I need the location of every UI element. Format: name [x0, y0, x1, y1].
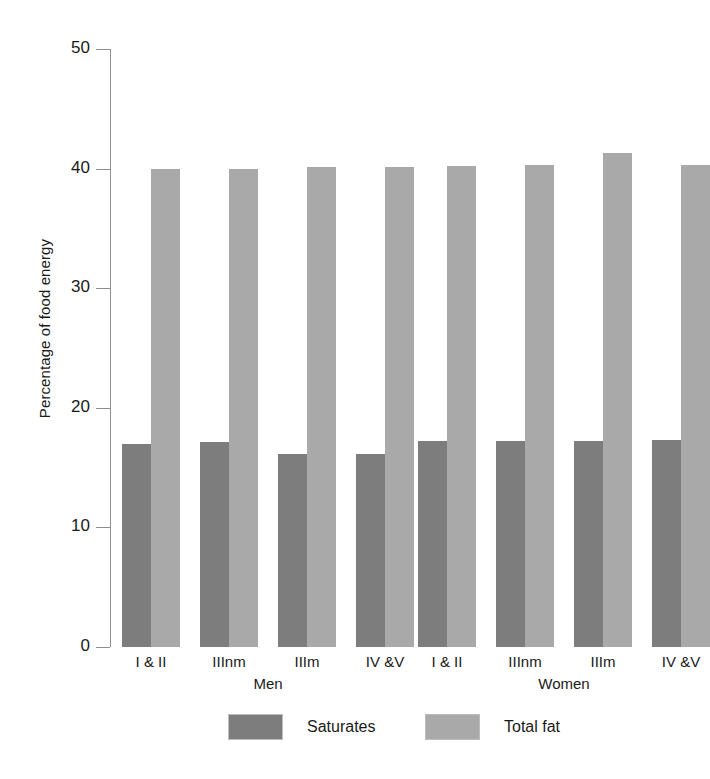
y-axis-tick — [96, 288, 110, 289]
plot-area — [110, 49, 640, 647]
legend-label: Total fat — [504, 718, 560, 736]
y-axis-tick — [96, 647, 110, 648]
y-axis-tick-label: 0 — [44, 636, 90, 656]
y-axis-title: Percentage of food energy — [36, 179, 53, 479]
y-axis-tick — [96, 408, 110, 409]
x-axis-category-label: IV &V — [662, 653, 700, 670]
bar-total-fat — [385, 167, 414, 647]
y-axis-tick-label: 20 — [44, 397, 90, 417]
bar-saturates — [652, 440, 681, 647]
bar-total-fat — [525, 165, 554, 647]
bar-total-fat — [151, 169, 180, 647]
x-axis-group-label: Women — [538, 675, 589, 692]
bar-total-fat — [603, 153, 632, 647]
x-axis-category-label: I & II — [136, 653, 167, 670]
bar-total-fat — [447, 166, 476, 647]
bar-saturates — [356, 454, 385, 647]
y-axis-tick-label: 40 — [44, 158, 90, 178]
x-axis-category-label: IIInm — [212, 653, 245, 670]
x-axis-category-label: IIIm — [295, 653, 320, 670]
y-axis-tick — [96, 527, 110, 528]
bar-total-fat — [681, 165, 710, 647]
bar-saturates — [278, 454, 307, 647]
bar-saturates — [418, 441, 447, 647]
bar-total-fat — [307, 167, 336, 647]
y-axis-tick — [96, 49, 110, 50]
bar-saturates — [496, 441, 525, 647]
x-axis-group-label: Men — [253, 675, 282, 692]
y-axis-tick-label: 10 — [44, 516, 90, 536]
bar-saturates — [200, 442, 229, 647]
x-axis-category-label: IV &V — [366, 653, 404, 670]
legend-label: Saturates — [307, 718, 375, 736]
x-axis-category-label: I & II — [432, 653, 463, 670]
x-axis-category-label: IIIm — [591, 653, 616, 670]
bar-saturates — [574, 441, 603, 647]
bar-saturates — [122, 444, 151, 647]
x-axis-category-label: IIInm — [508, 653, 541, 670]
y-axis-tick-label: 50 — [44, 38, 90, 58]
y-axis-tick — [96, 169, 110, 170]
legend-swatch — [425, 714, 480, 740]
bar-total-fat — [229, 169, 258, 647]
legend-swatch — [228, 714, 283, 740]
y-axis-tick-label: 30 — [44, 277, 90, 297]
chart-legend: SaturatesTotal fat — [0, 714, 666, 754]
legend-item[interactable]: Saturates — [228, 714, 375, 740]
legend-item[interactable]: Total fat — [425, 714, 560, 740]
